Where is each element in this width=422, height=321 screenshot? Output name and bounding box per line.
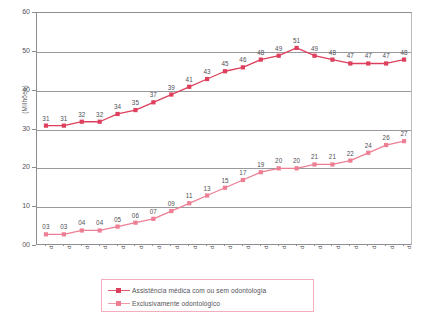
- data-point-marker: [312, 162, 316, 166]
- data-point-marker: [348, 61, 352, 65]
- data-point-marker: [295, 166, 299, 170]
- data-point-marker: [169, 92, 173, 96]
- data-point-marker: [205, 193, 209, 197]
- data-point-marker: [44, 124, 48, 128]
- data-point-marker: [151, 217, 155, 221]
- y-axis-title: (Milhões): [21, 70, 28, 130]
- data-point-label: 03: [60, 223, 67, 230]
- data-point-marker: [98, 120, 102, 124]
- data-point-marker: [366, 151, 370, 155]
- data-point-label: 46: [239, 56, 246, 63]
- chart-legend: Assistência médica com ou sem odontologi…: [101, 279, 314, 312]
- data-point-marker: [330, 162, 334, 166]
- data-point-label: 07: [150, 208, 157, 215]
- y-tick-label: 20: [8, 163, 30, 171]
- data-point-marker: [241, 178, 245, 182]
- y-tick-label: 60: [8, 8, 30, 16]
- data-point-label: 48: [400, 49, 407, 56]
- data-point-label: 34: [114, 103, 121, 110]
- data-point-marker: [115, 224, 119, 228]
- data-point-marker: [80, 120, 84, 124]
- legend-item-label: Assistência médica com ou sem odontologi…: [132, 287, 266, 294]
- data-point-marker: [259, 170, 263, 174]
- data-point-marker: [133, 108, 137, 112]
- data-point-label: 48: [329, 49, 336, 56]
- data-point-label: 48: [257, 49, 264, 56]
- data-point-label: 04: [78, 219, 85, 226]
- legend-marker-icon: [108, 286, 130, 295]
- data-point-label: 20: [275, 157, 282, 164]
- data-point-marker: [241, 65, 245, 69]
- data-point-marker: [223, 69, 227, 73]
- plot-area: 3131323234353739414345464849514948474747…: [36, 12, 412, 245]
- data-point-label: 20: [293, 157, 300, 164]
- data-point-marker: [366, 61, 370, 65]
- data-point-label: 31: [60, 115, 67, 122]
- data-point-label: 04: [96, 219, 103, 226]
- data-point-label: 32: [78, 111, 85, 118]
- data-point-marker: [384, 143, 388, 147]
- data-point-marker: [115, 112, 119, 116]
- data-point-marker: [295, 46, 299, 50]
- y-tick-label: 50: [8, 47, 30, 55]
- legend-item-exclusivamente-odontologico: Exclusivamente odontológico: [108, 297, 313, 309]
- data-point-marker: [205, 77, 209, 81]
- y-tick-label: 00: [8, 241, 30, 249]
- data-point-marker: [348, 158, 352, 162]
- data-point-label: 19: [257, 161, 264, 168]
- data-point-label: 39: [168, 84, 175, 91]
- data-point-label: 09: [168, 200, 175, 207]
- series-lines: [37, 13, 413, 246]
- data-point-marker: [277, 166, 281, 170]
- data-point-marker: [187, 201, 191, 205]
- line-chart: (Milhões) 60504030201000 dez/00dez/01dez…: [0, 0, 422, 321]
- data-point-label: 41: [186, 76, 193, 83]
- data-point-label: 11: [186, 192, 193, 199]
- legend-item-assistencia-medica: Assistência médica com ou sem odontologi…: [108, 284, 313, 296]
- y-tick-mark: [32, 245, 36, 246]
- data-point-marker: [277, 54, 281, 58]
- data-point-label: 35: [132, 99, 139, 106]
- data-point-marker: [259, 58, 263, 62]
- y-tick-label: 30: [8, 125, 30, 133]
- data-point-label: 22: [347, 150, 354, 157]
- data-point-marker: [80, 228, 84, 232]
- data-point-label: 43: [203, 68, 210, 75]
- data-point-label: 13: [203, 185, 210, 192]
- data-point-marker: [44, 232, 48, 236]
- data-point-label: 37: [150, 91, 157, 98]
- data-point-label: 47: [347, 52, 354, 59]
- data-point-marker: [169, 209, 173, 213]
- data-point-marker: [187, 85, 191, 89]
- legend-marker-icon: [108, 299, 130, 308]
- data-point-label: 26: [383, 134, 390, 141]
- data-point-label: 06: [132, 212, 139, 219]
- data-point-label: 47: [383, 52, 390, 59]
- data-point-label: 27: [400, 130, 407, 137]
- data-point-marker: [62, 232, 66, 236]
- data-point-marker: [223, 186, 227, 190]
- data-point-label: 51: [293, 37, 300, 44]
- data-point-marker: [151, 100, 155, 104]
- y-tick-label: 40: [8, 86, 30, 94]
- data-point-label: 24: [365, 142, 372, 149]
- data-point-marker: [312, 54, 316, 58]
- data-point-marker: [402, 58, 406, 62]
- data-point-marker: [384, 61, 388, 65]
- data-point-label: 21: [311, 153, 318, 160]
- data-point-marker: [133, 221, 137, 225]
- data-point-label: 49: [311, 45, 318, 52]
- legend-item-label: Exclusivamente odontológico: [132, 300, 220, 307]
- data-point-label: 47: [365, 52, 372, 59]
- data-point-marker: [402, 139, 406, 143]
- data-point-label: 17: [239, 169, 246, 176]
- data-point-label: 15: [221, 177, 228, 184]
- data-point-label: 45: [221, 60, 228, 67]
- data-point-label: 31: [42, 115, 49, 122]
- data-point-label: 05: [114, 216, 121, 223]
- data-point-marker: [330, 58, 334, 62]
- data-point-label: 03: [42, 223, 49, 230]
- data-point-marker: [62, 124, 66, 128]
- data-point-label: 32: [96, 111, 103, 118]
- data-point-label: 49: [275, 45, 282, 52]
